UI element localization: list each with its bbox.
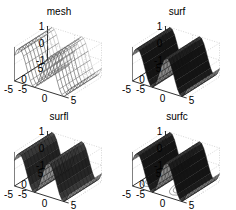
- y-tick-label: 5: [156, 168, 162, 179]
- z-tick-label: 0: [39, 38, 45, 49]
- z-tick-label: 0: [157, 143, 163, 154]
- z-tick-label: 1: [157, 21, 163, 32]
- z-tick-label: 1: [157, 126, 163, 137]
- x-tick-label: 5: [71, 95, 77, 105]
- x-tick-label: -5: [18, 189, 27, 200]
- x-tick-label: 0: [42, 198, 48, 209]
- subplot-mesh: mesh 10-150-5-505: [0, 0, 118, 105]
- subplot-surfl: surfl 10-150-5-505: [0, 105, 118, 210]
- subplot-surfc: surfc 10-150-5-505: [118, 105, 236, 210]
- subplot-surf: surf 10-150-5-505: [118, 0, 236, 105]
- z-tick-label: 1: [39, 21, 45, 32]
- y-tick-label: -5: [122, 84, 131, 95]
- mesh-plot: 10-150-5-505: [0, 0, 118, 105]
- x-tick-label: -5: [18, 84, 27, 95]
- x-tick-label: 5: [71, 200, 77, 210]
- y-tick-label: 0: [139, 74, 145, 85]
- surfl-plot: 10-150-5-505: [0, 105, 118, 210]
- x-tick-label: 0: [160, 198, 166, 209]
- x-tick-label: 5: [189, 200, 195, 210]
- z-tick-label: 1: [39, 126, 45, 137]
- y-tick-label: -5: [4, 189, 13, 200]
- x-tick-label: 0: [160, 93, 166, 104]
- surf-plot: 10-150-5-505: [118, 0, 236, 105]
- y-tick-label: 0: [21, 179, 27, 190]
- y-tick-label: 0: [21, 74, 27, 85]
- z-tick-label: 0: [39, 143, 45, 154]
- x-tick-label: -5: [136, 84, 145, 95]
- y-tick-label: 0: [139, 179, 145, 190]
- surfc-plot: 10-150-5-505: [118, 105, 236, 210]
- x-tick-label: 0: [42, 93, 48, 104]
- y-tick-label: -5: [122, 189, 131, 200]
- z-tick-label: 0: [157, 38, 163, 49]
- x-tick-label: -5: [136, 189, 145, 200]
- y-tick-label: 5: [38, 168, 44, 179]
- y-tick-label: 5: [38, 63, 44, 74]
- x-tick-label: 5: [189, 95, 195, 105]
- y-tick-label: 5: [156, 63, 162, 74]
- y-tick-label: -5: [4, 84, 13, 95]
